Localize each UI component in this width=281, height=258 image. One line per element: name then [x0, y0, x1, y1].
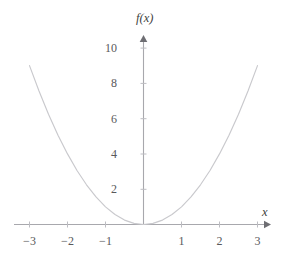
y-tick-label-8: 8 — [111, 77, 117, 89]
x-tick-label-neg1: −1 — [99, 235, 112, 247]
y-tick-label-10: 10 — [105, 42, 117, 54]
y-tick-label-6: 6 — [111, 113, 117, 125]
y-tick-label-2: 2 — [111, 183, 117, 195]
plot-canvas — [0, 0, 281, 258]
x-axis-label: x — [262, 206, 268, 219]
y-tick-label-4: 4 — [111, 148, 117, 160]
x-tick-label-3: 3 — [255, 235, 261, 247]
x-tick-label-1: 1 — [179, 235, 185, 247]
y-axis-label: f(x) — [136, 12, 153, 25]
x-axis-arrow-icon — [264, 221, 271, 229]
x-tick-label-neg2: −2 — [61, 235, 74, 247]
y-axis-arrow-icon — [140, 35, 148, 42]
function-plot-figure: f(x) x 2 4 6 8 10 −3 −2 −1 1 2 3 — [0, 0, 281, 258]
x-tick-label-2: 2 — [217, 235, 223, 247]
x-tick-label-neg3: −3 — [23, 235, 36, 247]
